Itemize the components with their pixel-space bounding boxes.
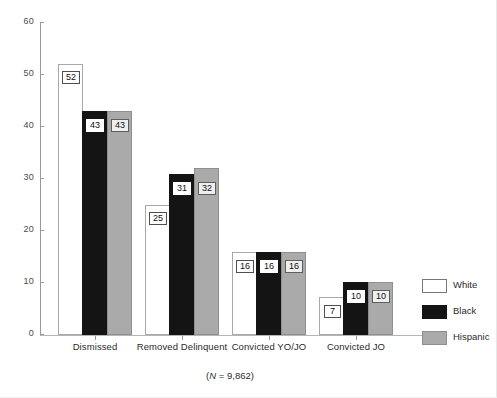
- sample-size-note: (N = 9,862): [0, 370, 460, 381]
- value-label-dismissed-hispanic: 43: [111, 119, 129, 132]
- y-tick-label: 30: [8, 172, 34, 182]
- bar-chart-figure: 0 10 20 30 40 50 60 52 43 43 25: [0, 0, 497, 398]
- legend-label-white: White: [453, 279, 477, 290]
- y-tick-label: 40: [8, 120, 34, 130]
- y-tick-label: 20: [8, 224, 34, 234]
- x-tick-mark-removed-delinquent: [182, 336, 183, 340]
- value-label-convicted-yojo-white: 16: [236, 260, 254, 273]
- bar-dismissed-white[interactable]: [58, 64, 83, 335]
- note-rest: = 9,862): [216, 370, 254, 381]
- y-tick-label: 50: [8, 68, 34, 78]
- bar-dismissed-hispanic[interactable]: [107, 111, 132, 335]
- y-tick-label: 0: [8, 328, 34, 338]
- value-label-convicted-yojo-hispanic: 16: [285, 260, 303, 273]
- bars-layer: 52 43 43 25 31 32 16 16 16 7 10 10: [40, 22, 450, 335]
- value-label-removed-delinquent-black: 31: [173, 182, 191, 195]
- value-label-removed-delinquent-hispanic: 32: [198, 182, 216, 195]
- value-label-removed-delinquent-white: 25: [149, 212, 167, 225]
- value-label-convicted-jo-white: 7: [324, 305, 341, 318]
- bar-removed-delinquent-black[interactable]: [169, 174, 195, 335]
- value-label-dismissed-black: 43: [86, 119, 104, 132]
- value-label-convicted-yojo-black: 16: [260, 260, 278, 273]
- value-label-dismissed-white: 52: [62, 71, 80, 84]
- x-axis-line: [40, 335, 431, 336]
- x-label-convicted-jo: Convicted JO: [306, 341, 406, 352]
- x-tick-mark-convicted-jo: [356, 336, 357, 340]
- value-label-convicted-jo-hispanic: 10: [372, 290, 390, 303]
- bar-dismissed-black[interactable]: [82, 111, 108, 335]
- legend-label-black: Black: [453, 305, 476, 316]
- x-tick-mark-dismissed: [95, 336, 96, 340]
- legend-swatch-black-icon: [422, 305, 447, 319]
- x-tick-mark-convicted-yojo: [269, 336, 270, 340]
- legend-swatch-white-icon: [422, 279, 447, 293]
- legend-swatch-hispanic-icon: [422, 331, 447, 345]
- legend-label-hispanic: Hispanic: [453, 331, 489, 342]
- y-tick-label: 10: [8, 276, 34, 286]
- value-label-convicted-jo-black: 10: [347, 290, 365, 303]
- y-tick-label: 60: [8, 16, 34, 26]
